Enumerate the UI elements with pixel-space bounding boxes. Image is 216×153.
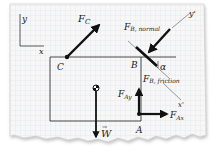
f-c-sub: C: [85, 18, 91, 26]
x-axis-label: x: [39, 47, 44, 56]
f-ay-sub: Ay: [123, 93, 132, 101]
x-prime-label: x': [178, 101, 184, 109]
point-c-label: C: [57, 62, 64, 72]
point-a-label: A: [135, 125, 143, 135]
angle-alpha-label: α: [160, 62, 166, 72]
y-axis-label: y: [21, 14, 28, 24]
diagram-canvas: y x y' x' FC C FB, normal B α FB, fricti…: [0, 0, 216, 153]
y-prime-label: y': [188, 9, 196, 18]
weight-vector-mark: →: [102, 123, 107, 130]
f-b-normal-sub: B, normal: [129, 25, 160, 32]
point-b-label: B: [130, 60, 138, 70]
f-b-friction-sub: B, friction: [148, 77, 180, 85]
f-ax-sub: Ax: [175, 114, 184, 121]
